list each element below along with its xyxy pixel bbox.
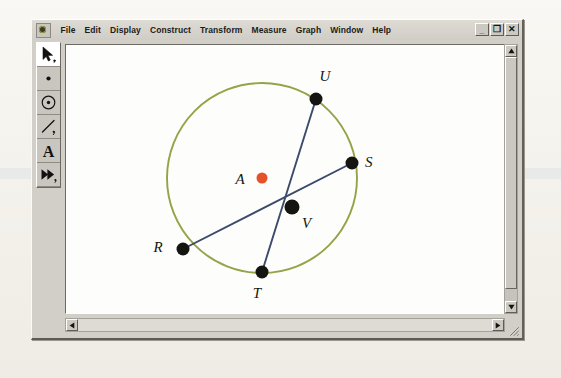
toolbox: A xyxy=(36,42,61,188)
scroll-down-button[interactable] xyxy=(505,301,517,313)
svg-text:A: A xyxy=(43,143,55,160)
circle-icon xyxy=(39,93,58,112)
menu-item-help[interactable]: Help xyxy=(368,23,396,37)
menu-item-display[interactable]: Display xyxy=(106,23,146,37)
resize-grip-icon xyxy=(507,324,520,337)
chord-RS[interactable] xyxy=(183,163,352,249)
vertical-scroll-track[interactable] xyxy=(505,57,517,301)
vertical-scroll-thumb[interactable] xyxy=(505,57,517,289)
double-arrow-icon xyxy=(39,165,58,184)
label-T: T xyxy=(253,285,263,301)
text-a-icon: A xyxy=(39,141,58,160)
scroll-up-button[interactable] xyxy=(505,45,517,57)
label-V: V xyxy=(302,215,313,231)
chevron-right-icon xyxy=(495,322,501,329)
restore-icon: ❐ xyxy=(491,24,503,35)
custom-tool[interactable] xyxy=(37,163,60,187)
menu-item-construct[interactable]: Construct xyxy=(145,23,195,37)
vertical-scrollbar[interactable] xyxy=(504,44,518,314)
resize-grip[interactable] xyxy=(507,323,520,336)
geometry-figure: A U S V R T xyxy=(66,45,505,314)
point-icon xyxy=(39,69,58,88)
menu-bar: File Edit Display Construct Transform Me… xyxy=(32,20,522,40)
scroll-left-button[interactable] xyxy=(66,319,78,331)
close-icon: ✕ xyxy=(506,24,518,35)
chevron-down-icon xyxy=(508,304,515,310)
window-controls: _ ❐ ✕ xyxy=(475,23,519,36)
point-R[interactable] xyxy=(177,243,190,256)
menu-item-transform[interactable]: Transform xyxy=(196,23,247,37)
segment-icon xyxy=(39,117,58,136)
text-tool[interactable]: A xyxy=(37,139,60,163)
point-A-center[interactable] xyxy=(257,173,268,184)
point-U[interactable] xyxy=(310,93,323,106)
restore-button[interactable]: ❐ xyxy=(490,23,504,36)
scroll-right-button[interactable] xyxy=(492,319,504,331)
menu-item-window[interactable]: Window xyxy=(326,23,368,37)
close-button[interactable]: ✕ xyxy=(505,23,519,36)
point-T[interactable] xyxy=(256,266,269,279)
horizontal-scrollbar[interactable] xyxy=(65,318,505,332)
minimize-icon: _ xyxy=(476,25,488,36)
point-V[interactable] xyxy=(285,200,300,215)
label-S: S xyxy=(365,154,373,170)
point-S[interactable] xyxy=(346,157,359,170)
chevron-left-icon xyxy=(69,322,75,329)
menu-item-file[interactable]: File xyxy=(56,23,80,37)
chevron-up-icon xyxy=(508,48,515,54)
label-R: R xyxy=(152,239,162,255)
menu-item-measure[interactable]: Measure xyxy=(247,23,291,37)
minimize-button[interactable]: _ xyxy=(475,23,489,36)
app-icon[interactable] xyxy=(36,23,51,38)
arrow-icon xyxy=(39,45,58,64)
selection-arrow-tool[interactable] xyxy=(37,43,60,67)
menu-item-graph[interactable]: Graph xyxy=(291,23,326,37)
straightedge-tool[interactable] xyxy=(37,115,60,139)
sketch-canvas[interactable]: A U S V R T xyxy=(65,44,505,314)
point-tool[interactable] xyxy=(37,67,60,91)
label-U: U xyxy=(320,68,332,84)
compass-circle-tool[interactable] xyxy=(37,91,60,115)
menu-item-edit[interactable]: Edit xyxy=(80,23,105,37)
label-A: A xyxy=(234,171,245,187)
application-window: File Edit Display Construct Transform Me… xyxy=(31,19,524,340)
horizontal-scroll-track[interactable] xyxy=(78,319,492,331)
